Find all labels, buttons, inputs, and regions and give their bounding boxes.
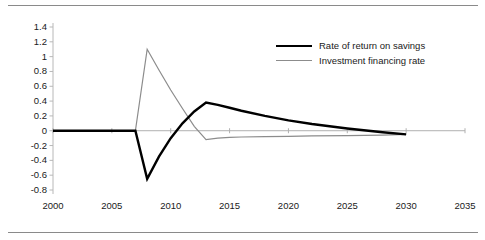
legend-item-investment-financing-rate: Investment financing rate bbox=[276, 53, 425, 68]
y-axis-tick-label: 0.4 bbox=[4, 96, 47, 106]
y-axis-tick-label: -0.2 bbox=[4, 141, 47, 151]
y-axis-tick-label: 0 bbox=[4, 126, 47, 136]
plot-area: 1.41.210.80.60.40.20-0.2-0.4-0.6-0.8 200… bbox=[0, 0, 485, 240]
y-axis-tick-label: -0.8 bbox=[4, 185, 47, 195]
x-axis-tick-label: 2010 bbox=[149, 201, 193, 211]
legend-item-rate-of-return-on-savings: Rate of return on savings bbox=[276, 38, 425, 53]
chart-figure: 1.41.210.80.60.40.20-0.2-0.4-0.6-0.8 200… bbox=[0, 0, 485, 240]
y-axis-tick-label: 1.4 bbox=[4, 22, 47, 32]
x-axis-tick-label: 2025 bbox=[325, 201, 369, 211]
y-axis-tick-label: 0.6 bbox=[4, 81, 47, 91]
y-axis-tick-label: 0.2 bbox=[4, 111, 47, 121]
x-axis-tick-label: 2000 bbox=[31, 201, 75, 211]
y-axis-tick-label: 1 bbox=[4, 52, 47, 62]
y-axis-tick-label: -0.4 bbox=[4, 155, 47, 165]
y-axis-tick-label: 0.8 bbox=[4, 66, 47, 76]
y-axis-tick-label: 1.2 bbox=[4, 37, 47, 47]
y-axis-tick-label: -0.6 bbox=[4, 170, 47, 180]
legend-line-swatch-icon bbox=[276, 60, 312, 61]
legend-item-label: Rate of return on savings bbox=[319, 40, 425, 51]
x-axis-tick-label: 2035 bbox=[443, 201, 485, 211]
series-group bbox=[53, 49, 406, 179]
x-axis-tick-label: 2020 bbox=[266, 201, 310, 211]
x-axis-tick-label: 2005 bbox=[90, 201, 134, 211]
x-axis-tick-label: 2015 bbox=[208, 201, 252, 211]
legend-item-label: Investment financing rate bbox=[319, 55, 425, 66]
legend-line-swatch-icon bbox=[276, 45, 312, 47]
x-axis-tick-label: 2030 bbox=[384, 201, 428, 211]
series-line-0 bbox=[53, 103, 406, 179]
chart-legend: Rate of return on savings Investment fin… bbox=[276, 38, 425, 68]
